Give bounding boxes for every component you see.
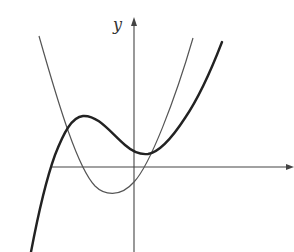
y-axis-label: y — [112, 15, 123, 34]
parabola-curve — [39, 36, 193, 193]
cubic-curve — [31, 42, 222, 252]
y-axis-arrow-icon — [131, 17, 137, 26]
x-axis-arrow-icon — [286, 164, 294, 170]
function-graph: y — [0, 0, 294, 252]
